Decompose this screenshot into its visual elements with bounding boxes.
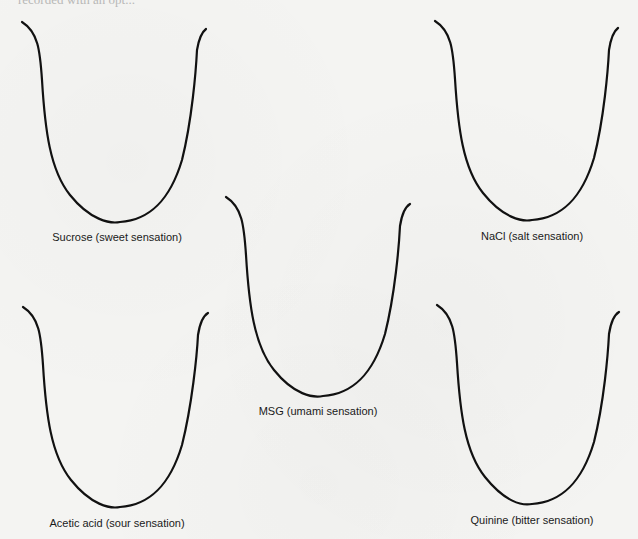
curve-nacl [435,21,618,220]
curve-quinine [437,305,619,504]
label-nacl: NaCl (salt sensation) [481,230,583,242]
taste-curves-diagram [0,0,638,539]
curve-acetic-acid [23,307,208,507]
label-acetic-acid: Acetic acid (sour sensation) [49,517,184,529]
label-msg: MSG (umami sensation) [259,405,378,417]
curve-sucrose [22,22,206,222]
label-quinine: Quinine (bitter sensation) [471,514,594,526]
label-sucrose: Sucrose (sweet sensation) [52,231,182,243]
curve-msg [226,197,410,397]
